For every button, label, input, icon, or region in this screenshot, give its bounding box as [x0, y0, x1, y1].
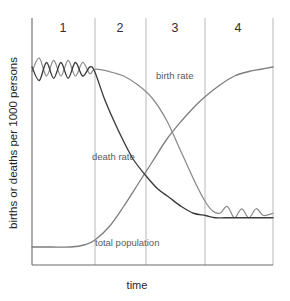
death-rate-label: death rate	[92, 151, 135, 162]
demographic-transition-chart: 1 2 3 4 birth rate death rate total popu…	[0, 0, 290, 301]
chart-svg: 1 2 3 4 birth rate death rate total popu…	[0, 0, 290, 301]
stage-label-4: 4	[235, 21, 242, 35]
birth-rate-label: birth rate	[156, 70, 194, 81]
stage-label-3: 3	[172, 21, 179, 35]
stage-label-2: 2	[117, 21, 124, 35]
y-axis-label: births or deaths per 1000 persons	[7, 57, 19, 229]
total-population-label: total population	[95, 237, 159, 248]
chart-background	[0, 0, 290, 301]
x-axis-label: time	[127, 279, 148, 291]
stage-label-1: 1	[60, 21, 67, 35]
